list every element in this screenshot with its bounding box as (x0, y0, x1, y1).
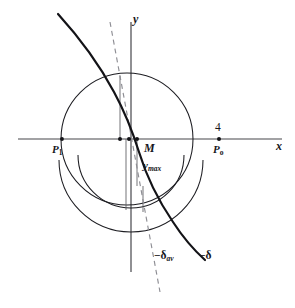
delta-av-label: −δav (154, 250, 174, 262)
point-label-m: M (144, 142, 155, 154)
delta-av-dashed-line (110, 22, 160, 292)
point-label-p1-sub: 1 (59, 148, 63, 157)
point-dot-m (135, 137, 139, 141)
figure-container: x y P1 Po 4 M ymax −δav −δ (0, 0, 295, 308)
point-label-p0-sub: o (220, 148, 224, 157)
point-label-p1-base: P (52, 143, 59, 155)
point-p0-dot (217, 137, 221, 141)
tick-label-four: 4 (215, 122, 221, 134)
x-axis-label: x (276, 140, 282, 152)
point-p1-dot (60, 137, 64, 141)
point-label-p0: Po (213, 144, 223, 155)
ymax-label-sub: max (148, 164, 161, 173)
delta-av-label-base: −δ (154, 249, 167, 261)
delta-av-label-sub: av (167, 254, 174, 263)
point-label-p0-base: P (213, 143, 220, 155)
point-label-p1: P1 (52, 144, 62, 155)
point-dot-a (118, 137, 122, 141)
point-dot-b (127, 137, 131, 141)
delta-label: −δ (199, 250, 212, 262)
y-axis-label: y (133, 13, 138, 25)
ymax-label: ymax (143, 160, 161, 171)
